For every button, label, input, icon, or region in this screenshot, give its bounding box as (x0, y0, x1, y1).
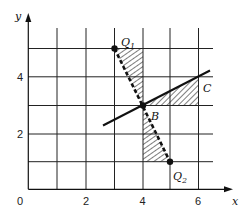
label-q1: Q1 (121, 36, 135, 51)
x-tick-2: 2 (83, 195, 89, 207)
y-tick-4: 4 (17, 71, 23, 83)
label-q2: Q2 (173, 170, 187, 185)
y-axis-label: y (14, 10, 22, 23)
x-tick-4: 4 (140, 195, 146, 207)
y-tick-2: 2 (17, 128, 23, 140)
coordinate-diagram: Q1 B Q2 C y x 0 2 4 6 2 4 (0, 0, 249, 217)
point-q2 (167, 159, 173, 165)
x-axis-label: x (232, 195, 239, 208)
label-b: B (150, 110, 159, 123)
y-axis-arrow-icon (25, 13, 31, 22)
label-c: C (203, 82, 212, 95)
x-axis-arrow-icon (224, 186, 233, 192)
point-b (140, 102, 146, 108)
origin-label: 0 (17, 195, 23, 207)
point-q1 (111, 45, 117, 51)
x-tick-6: 6 (195, 195, 201, 207)
